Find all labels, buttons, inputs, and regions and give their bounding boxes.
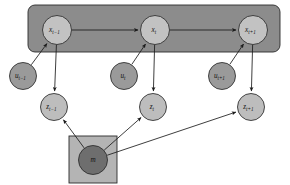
measurement-node-z-t-minus-1: zt−1 <box>41 94 68 121</box>
edge-m-to-z-t <box>104 118 141 151</box>
control-node-u-t-circle <box>111 63 138 90</box>
figure-canvas: xt−1xtxt+1ut−1utut+1zt−1ztzt+1m <box>0 0 290 185</box>
state-node-x-t-plus-1-circle <box>239 16 268 45</box>
state-node-x-t-plus-1: xt+1 <box>239 16 268 45</box>
state-node-x-t-circle <box>141 16 170 45</box>
control-node-u-t-plus-1-circle <box>209 63 236 90</box>
control-node-u-t-plus-1: ut+1 <box>209 63 236 90</box>
map-node-m: m <box>79 146 108 175</box>
control-node-u-t-minus-1: ut−1 <box>10 63 37 90</box>
measurement-node-z-t-minus-1-circle <box>41 94 68 121</box>
edge-m-to-z-t-plus-1 <box>107 112 236 155</box>
map-node-m-circle <box>79 146 108 175</box>
measurement-node-z-t-plus-1-circle <box>238 94 265 121</box>
measurement-node-z-t-circle <box>140 94 167 121</box>
state-node-x-t-minus-1: xt−1 <box>43 16 72 45</box>
control-node-u-t-minus-1-circle <box>10 63 37 90</box>
state-node-x-t-minus-1-circle <box>43 16 72 45</box>
control-node-u-t: ut <box>111 63 138 90</box>
measurement-node-z-t: zt <box>140 94 167 121</box>
state-node-x-t: xt <box>141 16 170 45</box>
graphical-model-diagram: xt−1xtxt+1ut−1utut+1zt−1ztzt+1m <box>0 0 290 185</box>
measurement-node-z-t-plus-1: zt+1 <box>238 94 265 121</box>
